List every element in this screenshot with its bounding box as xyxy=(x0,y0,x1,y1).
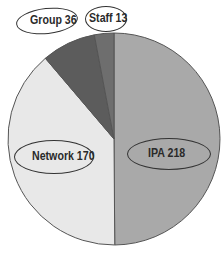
label-staff: Staff 13 xyxy=(89,11,127,25)
pie-chart xyxy=(0,0,223,256)
label-group: Group 36 xyxy=(30,13,77,27)
label-network: Network 170 xyxy=(32,149,95,163)
label-ipa: IPA 218 xyxy=(148,146,185,160)
